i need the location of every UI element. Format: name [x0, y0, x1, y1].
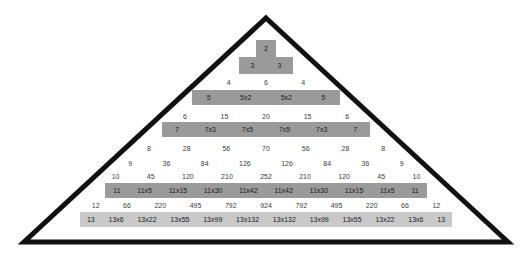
pascal-cell-8-5: 28 — [326, 142, 366, 155]
pascal-cell-13-10: 13x6 — [401, 212, 430, 227]
pascal-bar-5: 55x25x25 — [192, 90, 340, 105]
pascal-cell-4-1: 6 — [247, 76, 284, 89]
pascal-cell-5-0: 5 — [192, 90, 225, 105]
pascal-cell-9-5: 84 — [308, 157, 346, 170]
pascal-row-10: 10451202102522101204510 — [0, 170, 532, 183]
pascal-cell-9-1: 36 — [147, 157, 185, 170]
pascal-cell-13-8: 13x55 — [336, 212, 369, 227]
pascal-cell-12-2: 220 — [143, 199, 178, 212]
pascal-cell-9-7: 9 — [385, 157, 419, 170]
pascal-cell-13-9: 13x22 — [368, 212, 401, 227]
pascal-cell-12-7: 495 — [319, 199, 354, 212]
pascal-cell-10-3: 210 — [207, 170, 246, 183]
pascal-row-13: 1313x613x2213x5513x9913x13213x13213x9913… — [0, 212, 532, 227]
pascal-cell-8-0: 8 — [131, 142, 167, 155]
pascal-cell-10-2: 120 — [168, 170, 207, 183]
pascal-cell-7-4: 7x3 — [303, 122, 340, 137]
pascal-cell-9-3: 126 — [224, 157, 266, 170]
pascal-cell-8-4: 56 — [286, 142, 326, 155]
pascal-cell-5-2: 5x2 — [266, 90, 307, 105]
pascal-bar-7: 77x37x57x57x37 — [162, 122, 370, 137]
pascal-row-12: 12662204957929247924952206612 — [0, 199, 532, 212]
pascal-cell-2-0: 2 — [256, 45, 276, 52]
pascal-cell-4-0: 4 — [210, 76, 247, 89]
pascal-cell-12-8: 220 — [354, 199, 389, 212]
pascal-cell-7-5: 7 — [340, 122, 370, 137]
pascal-row-9: 9368412612684369 — [0, 157, 532, 170]
pascal-numbers-4: 464 — [210, 76, 322, 89]
pascal-cell-13-5: 13x132 — [229, 212, 266, 227]
pascal-cell-13-2: 13x22 — [131, 212, 164, 227]
pascal-cell-10-6: 120 — [325, 170, 364, 183]
pascal-cell-11-7: 11x15 — [336, 183, 371, 198]
pascal-cell-13-1: 13x6 — [102, 212, 131, 227]
pascal-numbers-12: 12662204957929247924952206612 — [80, 199, 452, 212]
pascal-cell-7-1: 7x3 — [192, 122, 229, 137]
pascal-cell-12-0: 12 — [80, 199, 111, 212]
pascal-cell-12-10: 12 — [421, 199, 452, 212]
pascal-cell-7-3: 7x5 — [266, 122, 303, 137]
pascal-cell-12-5: 924 — [248, 199, 283, 212]
pascal-numbers-9: 9368412612684369 — [113, 157, 419, 170]
pascal-cell-13-7: 13x99 — [303, 212, 336, 227]
pascal-cell-3-1: 3 — [266, 62, 293, 69]
pascal-cell-12-4: 792 — [213, 199, 248, 212]
pascal-numbers-8: 828567056288 — [131, 142, 401, 155]
pascal-cell-10-8: 10 — [399, 170, 434, 183]
pascal-cell-7-0: 7 — [162, 122, 192, 137]
pascal-row-3: 33 — [239, 57, 293, 74]
pascal-cell-11-3: 11x30 — [196, 183, 231, 198]
pascal-row-8: 828567056288 — [0, 142, 532, 155]
pascal-cell-7-2: 7x5 — [229, 122, 266, 137]
pascal-row-5: 55x25x25 — [0, 90, 532, 105]
pascal-cell-5-3: 5 — [307, 90, 340, 105]
pascal-bar-11: 1111x511x1511x3011x4211x4211x3011x1511x5… — [105, 183, 427, 198]
pascal-cell-9-2: 84 — [186, 157, 224, 170]
pascal-cell-12-9: 66 — [389, 199, 420, 212]
pascal-cell-12-1: 66 — [111, 199, 142, 212]
pascal-cell-5-1: 5x2 — [225, 90, 266, 105]
pascal-cell-12-3: 495 — [178, 199, 213, 212]
pascal-cell-13-3: 13x55 — [163, 212, 196, 227]
pascal-cell-11-1: 11x5 — [129, 183, 160, 198]
pascal-cell-11-4: 11x42 — [231, 183, 266, 198]
pascal-cell-11-2: 11x15 — [160, 183, 195, 198]
pascal-cell-13-0: 13 — [80, 212, 102, 227]
pascal-cell-13-4: 13x99 — [196, 212, 229, 227]
pascal-cell-13-11: 13 — [430, 212, 452, 227]
pascal-cell-9-0: 9 — [113, 157, 147, 170]
pascal-cell-8-1: 28 — [167, 142, 207, 155]
pascal-cell-8-2: 56 — [206, 142, 246, 155]
pascal-cell-13-6: 13x132 — [266, 212, 303, 227]
pascal-cell-8-3: 70 — [246, 142, 286, 155]
pascal-row-7: 77x37x57x57x37 — [0, 122, 532, 137]
pascal-cell-11-5: 11x42 — [266, 183, 301, 198]
pascal-bar-13: 1313x613x2213x5513x9913x13213x13213x9913… — [80, 212, 452, 227]
pascal-cell-9-6: 36 — [346, 157, 384, 170]
pascal-row-4: 464 — [0, 76, 532, 89]
pascal-cell-8-6: 8 — [365, 142, 401, 155]
pascal-cell-11-0: 11 — [105, 183, 129, 198]
pascal-cell-10-0: 10 — [98, 170, 133, 183]
pascal-cell-9-4: 126 — [266, 157, 308, 170]
pascal-cell-10-1: 45 — [133, 170, 168, 183]
pascal-cell-4-2: 4 — [285, 76, 322, 89]
pascal-cell-10-5: 210 — [286, 170, 325, 183]
pascal-cell-3-0: 3 — [239, 62, 266, 69]
pascal-cell-11-8: 11x5 — [372, 183, 403, 198]
pascal-row-11: 1111x511x1511x3011x4211x4211x3011x1511x5… — [0, 183, 532, 198]
pascal-numbers-10: 10451202102522101204510 — [98, 170, 434, 183]
pascal-row-2: 2 — [256, 40, 276, 57]
pascal-cell-11-6: 11x30 — [301, 183, 336, 198]
pascal-cell-10-4: 252 — [246, 170, 285, 183]
pascal-triangle-figure: 2 33 464 55x25x25 61520156 77x37x57x57x3… — [0, 0, 532, 262]
pascal-cell-11-9: 11 — [403, 183, 427, 198]
pascal-cell-10-7: 45 — [364, 170, 399, 183]
pascal-cell-12-6: 792 — [284, 199, 319, 212]
